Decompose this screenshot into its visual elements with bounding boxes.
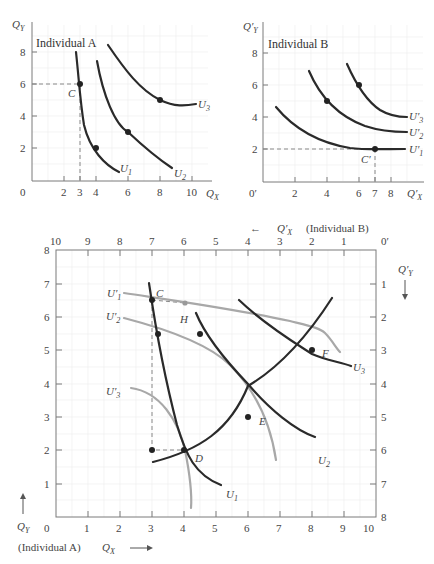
box-bottom-ticks [88, 511, 344, 517]
box-top-ticks [88, 250, 344, 256]
panel-a-label-c: C [68, 87, 76, 99]
panel-b-y-axis-label: Q′Y [243, 20, 259, 35]
box-bottom-tick: 3 [148, 522, 154, 534]
box-bottom-tick: 1 [84, 522, 90, 534]
panel-b-label-c-prime: C′ [361, 153, 371, 165]
box-label-e: E [258, 415, 266, 427]
panel-b-xtick: 6 [356, 187, 362, 199]
box-bottom-tick: 2 [116, 522, 122, 534]
panel-b-point-u2-prime [324, 98, 330, 104]
panel-a-origin: 0 [20, 186, 26, 198]
panel-a-ytick: 4 [20, 110, 26, 122]
arrow-up-icon [20, 493, 26, 499]
arrow-right-head-icon [147, 545, 153, 551]
box-point-e [245, 414, 251, 420]
panel-b-origin: 0′ [249, 187, 257, 199]
box-top-tick: 3 [277, 235, 283, 247]
panel-b-curve-u3-prime [347, 64, 407, 117]
panel-b-label-u1-prime: U′1 [409, 143, 423, 158]
box-bottom-tick: 6 [244, 522, 250, 534]
panel-a-point-u1 [93, 145, 99, 151]
box-right-tick: 5 [381, 411, 387, 423]
box-label-f: F [321, 347, 329, 359]
edgeworth-box-figure: 0 2 3 4 6 8 10 2 4 6 8 QY QX Individual … [0, 0, 434, 564]
panel-a-ytick: 2 [20, 142, 26, 154]
box-point-u1-on-u2-prime [155, 331, 161, 337]
panel-a-y-axis-label: QY [12, 18, 26, 33]
box-right-tick: 3 [381, 344, 387, 356]
panel-b-guide-c-prime [263, 149, 375, 182]
box-curve-u2 [196, 313, 315, 437]
panel-a-xtick: 4 [93, 186, 99, 198]
box-bottom-caption-q: QX [102, 541, 116, 556]
panel-b-xtick: 2 [292, 187, 298, 199]
box-right-axis-label: Q′Y [398, 263, 414, 278]
box-top-tick: 1 [341, 235, 347, 247]
panel-b-xtick: 8 [388, 187, 394, 199]
panel-a-xtick: 2 [61, 186, 67, 198]
box-top-tick: 4 [245, 235, 251, 247]
panel-a-point-u3 [157, 97, 163, 103]
box-right-tick: 2 [381, 311, 387, 323]
box-left-tick: 8 [44, 244, 50, 256]
box-grid [56, 250, 376, 517]
box-bottom-tick: 7 [276, 522, 282, 534]
panel-a-label-u3: U3 [198, 98, 210, 113]
panel-a-xtick: 6 [125, 186, 131, 198]
box-point-u2-start [197, 331, 203, 337]
box-left-tick: 7 [44, 278, 50, 290]
box-label-u2-prime: U′2 [106, 310, 120, 325]
box-top-caption-who: (Individual B) [306, 222, 369, 235]
box-right-tick: 6 [381, 444, 387, 456]
box-point-c [149, 297, 155, 303]
box-label-u3: U3 [353, 361, 365, 376]
box-left-axis-label: QY [17, 520, 31, 535]
panel-b-ytick: 4 [252, 111, 258, 123]
panel-a-title: Individual A [36, 36, 97, 50]
panel-b-point-u3-prime [356, 82, 362, 88]
box-bottom-tick: 10 [363, 522, 375, 534]
box-label-u3-prime: U′3 [106, 385, 120, 400]
arrow-down-icon [402, 294, 408, 300]
box-point-endowment-guide [149, 447, 155, 453]
box-right-tick: 8 [381, 511, 387, 523]
panel-a-curve-u3 [108, 45, 196, 105]
panel-b-xtick: 7 [372, 187, 378, 199]
box-top-tick: 2 [309, 235, 315, 247]
panel-a-xtick: 8 [157, 186, 163, 198]
panel-a-ytick: 6 [20, 78, 26, 90]
panel-b-ytick: 6 [252, 79, 258, 91]
panel-b-point-c-prime [372, 146, 378, 152]
box-top-tick: 7 [149, 235, 155, 247]
panel-b-title: Individual B [268, 37, 328, 51]
box-bottom-tick: 9 [340, 522, 346, 534]
panel-b-x-axis-label: Q′X [407, 187, 423, 202]
box-right-tick: 4 [381, 378, 387, 390]
panel-a-xtick: 10 [186, 186, 198, 198]
panel-a-curve-u2 [97, 61, 172, 168]
edgeworth-box: ← Q′X (Individual B) [17, 222, 414, 556]
panel-a-point-c [77, 81, 83, 87]
box-point-d [181, 447, 187, 453]
box-bottom-tick: 8 [308, 522, 314, 534]
box-top-tick: 10 [50, 235, 62, 247]
box-top-tick: 8 [117, 235, 123, 247]
panel-b-xtick: 4 [324, 187, 330, 199]
panel-b-label-u3-prime: U′3 [409, 110, 423, 125]
box-left-tick: 6 [44, 311, 50, 323]
panel-individual-b: 0′ 2 4 6 7 8 2 4 6 8 Q′Y Q′X Individual … [243, 20, 424, 202]
box-bottom-tick: 5 [212, 522, 218, 534]
panel-a-x-axis-label: QX [206, 187, 220, 202]
box-label-h: H [179, 313, 189, 325]
box-right-tick: 7 [381, 478, 387, 490]
box-right-tick: 1 [381, 278, 387, 290]
box-point-f [309, 347, 315, 353]
panel-b-ytick: 8 [252, 47, 258, 59]
box-origin-a: 0 [44, 522, 50, 534]
box-right-ticks [370, 284, 376, 484]
box-bottom-caption-who: (Individual A) [18, 541, 81, 554]
box-left-tick: 4 [44, 378, 50, 390]
box-left-tick: 2 [44, 444, 50, 456]
box-top-caption-arrow: ← [250, 222, 261, 234]
panel-a-xtick: 3 [77, 186, 83, 198]
